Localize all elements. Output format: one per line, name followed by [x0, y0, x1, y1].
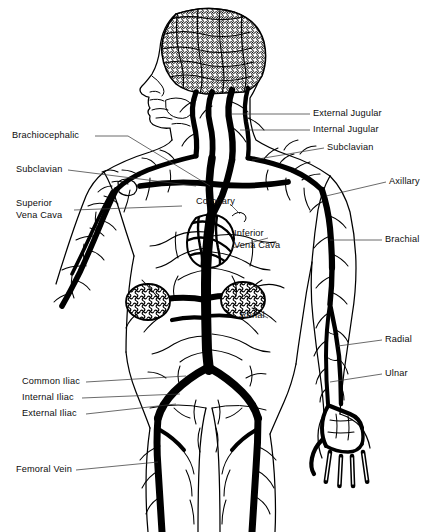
label-brachiocephalic[interactable]: Brachiocephalic [12, 130, 79, 142]
label-internal-jugular[interactable]: Internal Jugular [313, 124, 379, 136]
label-radial[interactable]: Radial [385, 334, 412, 346]
label-brachial[interactable]: Brachial [385, 234, 419, 246]
label-superior-vena-cava-line2[interactable]: Vena Cava [16, 210, 62, 222]
label-subclavian-left[interactable]: Subclavian [16, 164, 62, 176]
label-coronary[interactable]: Coronary [196, 196, 235, 208]
label-external-iliac[interactable]: External Iliac [22, 408, 77, 420]
label-subclavian-right[interactable]: Subclavian [327, 142, 373, 154]
finger-2 [339, 456, 341, 486]
label-common-iliac[interactable]: Common Iliac [22, 376, 80, 388]
label-internal-iliac[interactable]: Internal Iliac [22, 392, 74, 404]
anatomy-illustration [0, 0, 438, 532]
label-femoral-vein[interactable]: Femoral Vein [16, 464, 72, 476]
label-axillary[interactable]: Axillary [389, 176, 420, 188]
label-inferior-vena-cava-line2[interactable]: Vena Cava [234, 240, 280, 252]
label-external-jugular[interactable]: External Jugular [313, 108, 382, 120]
label-superior-vena-cava-line1[interactable]: Superior [16, 198, 52, 210]
venous-system-figure: External Jugular Internal Jugular Subcla… [0, 0, 438, 532]
label-renal[interactable]: Renal [240, 310, 265, 322]
finger-3 [352, 456, 353, 486]
label-inferior-vena-cava-line1[interactable]: Inferior [234, 228, 264, 240]
label-ulnar[interactable]: Ulnar [385, 368, 408, 380]
